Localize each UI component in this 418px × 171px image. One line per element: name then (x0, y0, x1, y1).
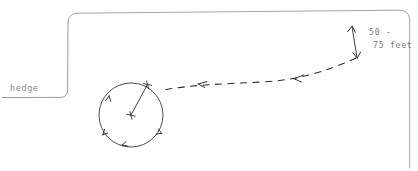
approach-path (160, 58, 356, 91)
sketch-canvas: hedge (0, 0, 418, 171)
distance-dimension-arrow (348, 26, 361, 58)
distance-label-line2: 75 feet (373, 40, 412, 50)
distance-label-line1: 50 - (369, 27, 392, 37)
radius-line (127, 81, 152, 119)
hedge-label: hedge (10, 83, 39, 93)
sketch-diagram: hedge (0, 0, 418, 171)
